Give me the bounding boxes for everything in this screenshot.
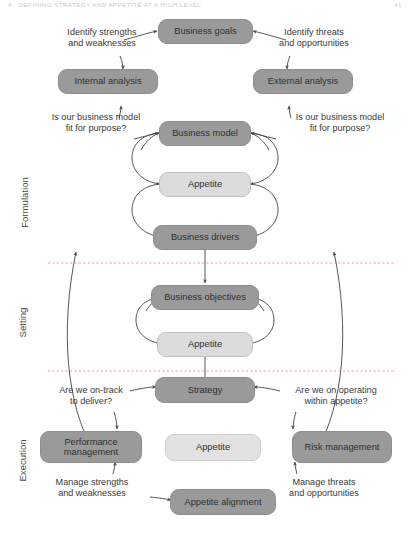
- node-appetite-setting[interactable]: Appetite: [157, 332, 253, 357]
- annotation-manage-threats: Manage threats and opportunities: [258, 477, 390, 500]
- node-strategy[interactable]: Strategy: [155, 377, 255, 403]
- annotation-operating-appetite: Are we on operating within appetite?: [270, 385, 402, 408]
- annotation-fit-purpose-right: Is our business model fit for purpose?: [272, 112, 408, 135]
- node-business-objectives[interactable]: Business objectives: [151, 285, 259, 310]
- band-label-formulation: Formulation: [19, 163, 30, 243]
- node-risk-management[interactable]: Risk management: [292, 431, 392, 463]
- node-business-drivers[interactable]: Business drivers: [153, 225, 257, 250]
- node-external-analysis[interactable]: External analysis: [253, 69, 353, 94]
- node-appetite-formulation[interactable]: Appetite: [159, 172, 251, 197]
- band-label-setting: Setting: [17, 283, 28, 363]
- annotation-identify-threats: Identify threats and opportunities: [252, 27, 376, 50]
- node-performance-management[interactable]: Performance management: [40, 431, 142, 463]
- diagram-canvas: 4 · DEFINING STRATEGY AND APPETITE AT A …: [0, 0, 410, 534]
- annotation-on-track-deliver: Are we on-track to deliver?: [38, 385, 144, 408]
- annotation-fit-purpose-left: Is our business model fit for purpose?: [28, 112, 164, 135]
- annotation-identify-strengths: Identify strengths and weaknesses: [42, 27, 162, 50]
- annotation-manage-strengths: Manage strengths and weaknesses: [30, 477, 154, 500]
- node-internal-analysis[interactable]: Internal analysis: [58, 69, 158, 94]
- node-business-model[interactable]: Business model: [159, 121, 251, 146]
- node-appetite-execution[interactable]: Appetite: [165, 434, 261, 461]
- band-label-execution: Execution: [17, 421, 28, 501]
- node-business-goals[interactable]: Business goals: [158, 19, 253, 44]
